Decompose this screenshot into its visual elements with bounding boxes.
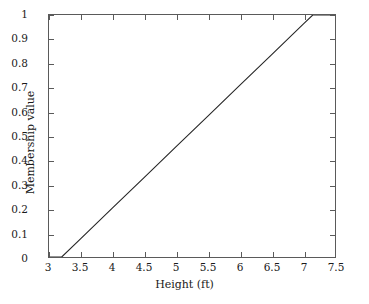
x-tick-label: 3.5	[72, 261, 89, 273]
x-tick-label: 4	[109, 261, 116, 273]
y-tick-mark	[49, 88, 54, 89]
x-tick-mark	[113, 252, 114, 257]
y-tick-mark	[49, 210, 54, 211]
x-tick-label: 5	[173, 261, 180, 273]
x-tick-mark	[305, 15, 306, 20]
y-tick-label: 0	[0, 252, 28, 264]
x-tick-label: 7	[301, 261, 308, 273]
x-tick-mark	[241, 15, 242, 20]
y-tick-mark	[330, 113, 335, 114]
data-line-svg	[49, 15, 335, 257]
x-tick-label: 6.5	[264, 261, 281, 273]
y-tick-label: 0.1	[0, 228, 28, 240]
y-tick-mark	[330, 15, 335, 16]
y-tick-label: 1	[0, 8, 28, 20]
x-tick-mark	[241, 252, 242, 257]
x-tick-mark	[49, 252, 50, 257]
y-tick-mark	[330, 137, 335, 138]
x-tick-mark	[49, 15, 50, 20]
x-tick-label: 6	[237, 261, 244, 273]
y-tick-mark	[49, 235, 54, 236]
x-tick-mark	[273, 252, 274, 257]
y-tick-mark	[330, 235, 335, 236]
x-tick-mark	[113, 15, 114, 20]
y-tick-mark	[330, 64, 335, 65]
y-tick-mark	[49, 113, 54, 114]
y-tick-mark	[330, 161, 335, 162]
y-tick-mark	[49, 39, 54, 40]
membership-ramp-line	[49, 15, 335, 257]
y-tick-mark	[330, 39, 335, 40]
y-tick-mark	[330, 210, 335, 211]
y-tick-mark	[330, 88, 335, 89]
x-tick-mark	[209, 252, 210, 257]
membership-function-chart: 00.10.20.30.40.50.60.70.80.91 33.544.555…	[0, 0, 369, 304]
y-tick-mark	[49, 64, 54, 65]
y-tick-mark	[49, 186, 54, 187]
x-tick-mark	[209, 15, 210, 20]
x-tick-mark	[81, 252, 82, 257]
x-axis-title: Height (ft)	[0, 278, 369, 291]
x-tick-mark	[273, 15, 274, 20]
x-tick-mark	[177, 252, 178, 257]
x-tick-label: 3	[45, 261, 52, 273]
x-tick-mark	[145, 15, 146, 20]
y-tick-mark	[330, 186, 335, 187]
x-tick-label: 4.5	[136, 261, 153, 273]
y-tick-mark	[49, 161, 54, 162]
x-tick-mark	[81, 15, 82, 20]
y-tick-label: 0.9	[0, 32, 28, 44]
x-tick-label: 7.5	[328, 261, 345, 273]
x-tick-mark	[305, 252, 306, 257]
x-tick-mark	[177, 15, 178, 20]
plot-area	[48, 14, 336, 258]
x-tick-label: 5.5	[200, 261, 217, 273]
x-tick-mark	[145, 252, 146, 257]
y-tick-mark	[49, 137, 54, 138]
y-axis-title: Membership value	[24, 63, 37, 223]
